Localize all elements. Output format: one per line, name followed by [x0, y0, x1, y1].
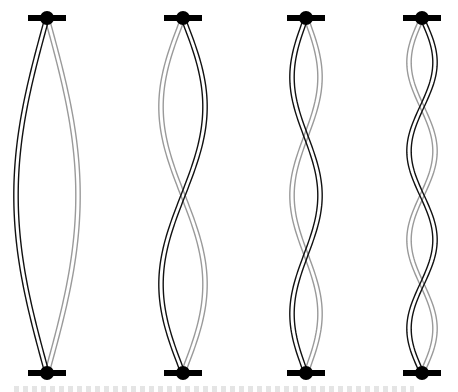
bottom-anchor-icon — [287, 366, 325, 380]
modes-layer — [14, 11, 441, 380]
caption-text — [14, 386, 414, 392]
bottom-anchor-icon — [28, 366, 66, 380]
top-anchor-icon — [287, 11, 325, 25]
string-black-phase — [159, 18, 207, 373]
string-gray-phase — [45, 18, 80, 373]
mode-2 — [159, 11, 207, 380]
top-anchor-icon — [403, 11, 441, 25]
standing-wave-diagram — [0, 0, 458, 392]
figure-caption-clipped — [0, 384, 458, 392]
bottom-anchor-icon — [403, 366, 441, 380]
string-black-phase — [14, 18, 49, 373]
top-anchor-icon — [28, 11, 66, 25]
mode-3 — [287, 11, 325, 380]
top-anchor-icon — [164, 11, 202, 25]
mode-4 — [403, 11, 441, 380]
mode-1 — [14, 11, 80, 380]
bottom-anchor-icon — [164, 366, 202, 380]
string-gray-phase — [159, 18, 207, 373]
